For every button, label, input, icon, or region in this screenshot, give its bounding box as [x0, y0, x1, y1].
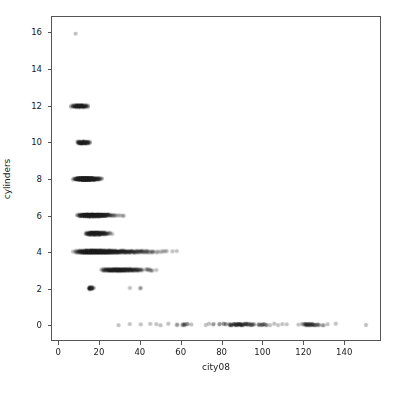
- y-tick-mark: [48, 325, 52, 326]
- y-tick-mark: [48, 32, 52, 33]
- x-tick-label: 80: [216, 347, 227, 357]
- x-tick-mark: [140, 341, 141, 345]
- x-axis-label: city08: [51, 362, 381, 372]
- y-axis-label-text: cylinders: [2, 158, 12, 199]
- y-tick-label: 4: [37, 247, 42, 257]
- scatter-plot-figure: 020406080100120140 0246810121416 city08 …: [0, 0, 414, 393]
- x-tick-label: 120: [295, 347, 311, 357]
- y-tick-label: 14: [31, 64, 42, 74]
- x-tick-label: 100: [254, 347, 270, 357]
- y-tick-mark: [48, 179, 52, 180]
- y-tick-label: 12: [31, 101, 42, 111]
- y-tick-label: 8: [37, 174, 42, 184]
- x-tick-label: 140: [336, 347, 352, 357]
- x-tick-mark: [344, 341, 345, 345]
- y-tick-mark: [48, 289, 52, 290]
- y-tick-label: 16: [31, 27, 42, 37]
- scatter-points-canvas: [52, 17, 380, 340]
- x-tick-label: 0: [55, 347, 60, 357]
- y-tick-label: 2: [37, 284, 42, 294]
- x-tick-label: 60: [175, 347, 186, 357]
- plot-axes-area: [51, 16, 381, 341]
- x-tick-label: 20: [94, 347, 105, 357]
- y-tick-mark: [48, 252, 52, 253]
- x-tick-label: 40: [134, 347, 145, 357]
- x-tick-mark: [303, 341, 304, 345]
- x-tick-mark: [262, 341, 263, 345]
- y-axis-label: cylinders: [0, 16, 14, 341]
- y-tick-mark: [48, 142, 52, 143]
- y-tick-label: 10: [31, 137, 42, 147]
- x-axis-label-text: city08: [202, 362, 230, 372]
- y-tick-mark: [48, 106, 52, 107]
- x-tick-mark: [222, 341, 223, 345]
- y-tick-mark: [48, 216, 52, 217]
- x-tick-mark: [58, 341, 59, 345]
- x-tick-mark: [99, 341, 100, 345]
- y-tick-mark: [48, 69, 52, 70]
- y-tick-label: 6: [37, 211, 42, 221]
- y-tick-label: 0: [37, 320, 42, 330]
- x-tick-mark: [181, 341, 182, 345]
